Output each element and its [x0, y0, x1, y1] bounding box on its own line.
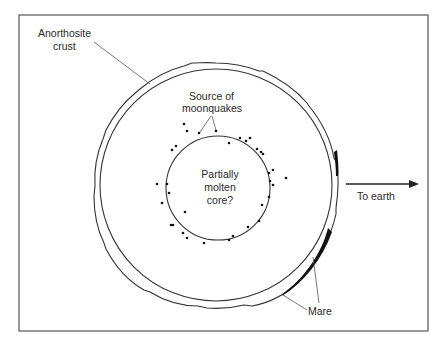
moonquake-dot: [256, 148, 259, 151]
moonquake-dot: [262, 153, 265, 156]
source-label-line1: Source of: [189, 90, 234, 102]
moonquake-dot: [247, 226, 250, 229]
moonquake-dot: [232, 235, 235, 238]
moonquake-dot: [166, 183, 169, 186]
moonquake-dot: [168, 192, 171, 195]
moonquake-dot: [249, 137, 252, 140]
moonquake-dot: [268, 172, 271, 175]
crust-label-line1: Anorthosite: [38, 27, 91, 39]
moonquake-dot: [175, 145, 178, 148]
crust-label-line2: crust: [53, 40, 76, 52]
core-label-line1: Partially: [201, 168, 239, 180]
moonquake-dot: [182, 232, 185, 235]
moonquake-dot: [245, 140, 248, 143]
moonquake-dot: [172, 224, 175, 227]
source-label-line2: moonquakes: [182, 102, 242, 114]
moonquake-dot: [171, 149, 174, 152]
mare-region: [282, 228, 332, 296]
moonquake-dot: [184, 211, 187, 214]
moonquake-dot: [198, 132, 201, 135]
moonquake-dot: [272, 184, 275, 187]
moonquake-dot: [161, 202, 164, 205]
moonquake-dot: [272, 169, 275, 172]
mare-leader-line-upper: [313, 257, 319, 303]
earth-direction-label: To earth: [357, 190, 395, 202]
moonquake-dot: [183, 123, 186, 126]
moonquake-dot: [261, 204, 264, 207]
moonquake-dot: [228, 142, 231, 145]
moonquake-dot: [269, 180, 272, 183]
moonquake-dot: [215, 130, 218, 133]
moonquake-dot: [156, 183, 159, 186]
moonquake-dot: [186, 237, 189, 240]
source-leader-line-left: [200, 116, 211, 132]
crust-leader-line: [94, 42, 150, 84]
moonquake-dot: [228, 239, 231, 242]
moonquake-dot: [285, 177, 288, 180]
core-label-line2: molten: [204, 181, 236, 193]
moonquake-dot: [239, 137, 242, 140]
source-leader-line-right: [212, 116, 216, 130]
moon-cross-section-diagram: Anorthosite crust Source of moonquakes P…: [0, 0, 443, 343]
mare-label: Mare: [308, 305, 332, 317]
moonquake-dot: [203, 242, 206, 245]
mare-leader-line-lower: [283, 295, 307, 310]
earth-direction-arrowhead-icon: [409, 180, 419, 188]
moonquake-dot: [186, 130, 189, 133]
moonquake-dot: [268, 196, 271, 199]
core-label-line3: core?: [207, 194, 233, 206]
mare-region-upper: [334, 150, 338, 176]
moonquake-dot: [258, 220, 261, 223]
moonquake-dot: [260, 151, 263, 154]
